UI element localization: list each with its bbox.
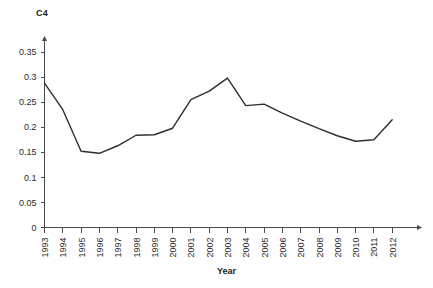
- x-axis-tick-label: 2003: [223, 238, 233, 258]
- y-axis-tick-label: 0.05: [19, 198, 37, 208]
- y-axis-arrow-icon: [42, 36, 47, 41]
- line-chart-plot: 00.050.10.150.20.250.30.35 1993199419951…: [0, 0, 433, 288]
- x-axis-tick-label: 2012: [388, 238, 398, 258]
- y-axis-tick-label: 0.3: [24, 72, 37, 82]
- chart-figure: C4 00.050.10.150.20.250.30.35 1993199419…: [0, 0, 433, 288]
- x-axis-tick-label: 1999: [150, 238, 160, 258]
- x-axis-tick-label: 1996: [95, 238, 105, 258]
- y-axis-tick-label: 0.1: [24, 173, 37, 183]
- y-axis-tick-group: 00.050.10.150.20.250.30.35: [19, 47, 45, 233]
- x-axis-tick-label: 1994: [58, 238, 68, 258]
- x-axis-tick-label: 1993: [40, 238, 50, 258]
- x-axis-tick-label: 2009: [333, 238, 343, 258]
- data-series-line: [45, 78, 393, 153]
- axes-group: [42, 36, 422, 230]
- x-axis-tick-label: 1998: [132, 238, 142, 258]
- y-axis-tick-label: 0: [31, 223, 36, 233]
- x-axis-tick-label: 2002: [205, 238, 215, 258]
- x-axis-tick-label: 2011: [369, 238, 379, 257]
- y-axis-tick-label: 0.35: [19, 47, 37, 57]
- y-axis-tick-label: 0.2: [24, 122, 37, 132]
- x-axis-tick-label: 1995: [77, 238, 87, 258]
- x-axis-tick-label: 2001: [186, 238, 196, 258]
- x-axis-tick-label: 1997: [113, 238, 123, 258]
- x-axis-tick-label: 2005: [260, 238, 270, 258]
- y-axis-tick-label: 0.15: [19, 147, 37, 157]
- x-axis-tick-label: 2004: [241, 238, 251, 258]
- x-axis-tick-label: 2008: [315, 238, 325, 258]
- x-axis-arrow-icon: [417, 225, 422, 230]
- x-axis-tick-label: 2010: [351, 238, 361, 258]
- x-axis-tick-label: 2000: [168, 238, 178, 258]
- x-axis-title: Year: [0, 266, 433, 276]
- y-axis-tick-label: 0.25: [19, 97, 37, 107]
- x-axis-tick-label: 2007: [296, 238, 306, 258]
- x-axis-tick-label: 2006: [278, 238, 288, 258]
- x-axis-tick-group: 1993199419951996199719981999200020012002…: [40, 228, 398, 258]
